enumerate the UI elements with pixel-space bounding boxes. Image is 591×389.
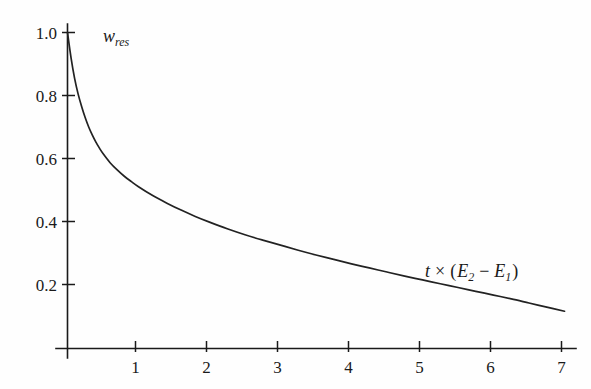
- y-axis-label-subscript: res: [115, 35, 130, 49]
- x-tick-label-4: 4: [344, 358, 353, 377]
- data-series-w-res: [68, 33, 565, 312]
- x-axis-label-e1-sub: 1: [505, 270, 511, 284]
- y-tick-label-5: 0.2: [36, 276, 57, 295]
- x-axis-label-close-paren: ): [512, 261, 518, 282]
- x-axis-label-var: t: [425, 261, 431, 281]
- x-tick-label-6: 6: [486, 358, 495, 377]
- x-axis-label-minus: −: [479, 261, 489, 281]
- y-tick-label-2: 0.8: [36, 87, 57, 106]
- x-axis-label-times: ×: [435, 261, 445, 281]
- x-axis-label-e1: E: [493, 261, 505, 281]
- x-tick-label-7: 7: [557, 358, 566, 377]
- x-tick-labels: 1 2 3 4 5 6 7: [131, 358, 566, 377]
- x-tick-label-2: 2: [202, 358, 211, 377]
- x-tick-marks: [136, 341, 562, 352]
- x-tick-label-5: 5: [415, 358, 424, 377]
- chart-canvas: 1.0 0.8 0.6 0.4 0.2 1 2 3 4 5 6 7: [0, 0, 591, 389]
- y-tick-label-3: 0.6: [36, 150, 57, 169]
- x-axis-label-open-paren: (: [450, 261, 456, 282]
- x-axis-label-e2-sub: 2: [468, 270, 474, 284]
- y-tick-label-1: 1.0: [36, 24, 57, 43]
- y-axis-label: wres: [103, 26, 130, 49]
- x-axis-label: t×(E2−E1): [425, 261, 518, 284]
- x-tick-label-3: 3: [273, 358, 282, 377]
- x-tick-label-1: 1: [131, 358, 140, 377]
- x-axis-label-e2: E: [456, 261, 468, 281]
- y-tick-label-4: 0.4: [36, 213, 58, 232]
- y-axis-label-base: w: [103, 26, 115, 46]
- y-tick-labels: 1.0 0.8 0.6 0.4 0.2: [36, 24, 58, 295]
- chart-figure: 1.0 0.8 0.6 0.4 0.2 1 2 3 4 5 6 7: [0, 0, 591, 389]
